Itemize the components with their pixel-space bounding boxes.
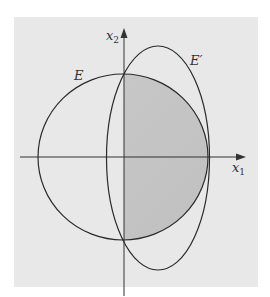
label-E: E bbox=[73, 68, 84, 83]
label-E-prime: E′ bbox=[189, 53, 202, 68]
y-axis-label: x2 bbox=[106, 28, 119, 45]
ellipse-diagram: x2 x1 E E′ bbox=[0, 0, 270, 297]
x-axis-label: x1 bbox=[232, 160, 245, 177]
y-axis-arrow-icon bbox=[121, 28, 128, 38]
